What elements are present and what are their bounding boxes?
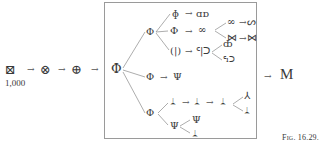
upper-child-2-next: ∞ <box>198 25 206 35</box>
arrow-icon: → <box>185 47 193 56</box>
lower-child-1-end-1: ⅄ <box>244 91 250 101</box>
result-glyph: M <box>280 67 293 82</box>
upper-child-1-next: ɑɒ <box>196 9 209 19</box>
upper-branch-glyph: Φ <box>146 27 154 37</box>
arrow-icon: → <box>182 98 190 107</box>
lower-child-2-leaf-1: Ψ <box>192 115 201 125</box>
lower-child-2-leaf-2: ᛦ <box>192 129 198 139</box>
upper-child-2: Ф <box>170 26 178 36</box>
middle-branch-next: Ψ <box>173 72 182 82</box>
tree-root-glyph: Φ <box>111 62 122 75</box>
upper-child-3-leaf-2: ᑦıᑐ <box>223 56 235 64</box>
bowtie-leaf-next: ⋈ <box>247 33 257 43</box>
infinity-leaf-next: ᔕ <box>247 17 256 27</box>
upper-child-3-leaf-1: ȸ <box>223 39 233 49</box>
arrow-icon: → <box>185 9 193 18</box>
lower-child-1-end-2: ᛦ <box>244 106 250 116</box>
arrow-icon: → <box>239 34 247 43</box>
upper-child-3-next: ᑦ|ᑐ <box>196 46 210 56</box>
upper-child-1: ɸ <box>172 9 179 19</box>
lower-branch-glyph: Φ <box>146 108 154 118</box>
lower-child-1-step-3: ᛦ <box>220 97 226 107</box>
infinity-leaf: ∞ <box>227 17 235 27</box>
upper-child-3: (|) <box>170 46 181 56</box>
arrow-icon: → <box>239 18 247 27</box>
middle-branch-glyph: Φ <box>146 72 154 82</box>
figure-caption: Fig. 16.29. <box>282 134 319 142</box>
lower-child-1-step-2: ᛦ <box>194 97 200 107</box>
arrow-icon: → <box>206 98 214 107</box>
lower-child-2: Ψ <box>170 121 179 131</box>
arrow-icon: → <box>264 72 272 81</box>
lower-child-1: ᛦ <box>170 97 176 107</box>
arrow-icon: → <box>160 73 168 82</box>
arrow-icon: → <box>185 27 193 36</box>
